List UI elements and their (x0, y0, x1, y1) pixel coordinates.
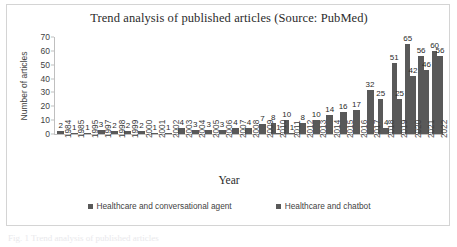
y-axis-tick-label: 70 (41, 32, 50, 42)
x-axis-tick-label: 2001 (158, 120, 167, 138)
y-axis-title-label: Number of articles (19, 51, 29, 120)
x-axis-tick-label: 2010 (279, 120, 288, 138)
bar-value-label: 10 (312, 111, 321, 119)
x-axis-tick-label: 2018 (387, 120, 396, 138)
x-axis-tick-label: 1995 (91, 120, 100, 138)
x-axis-tick-label: 2004 (198, 120, 207, 138)
x-axis-tick-label: 2015 (346, 120, 355, 138)
x-axis-tick-label: 1985 (77, 120, 86, 138)
y-axis-tick-label: 10 (41, 115, 50, 125)
bar-value-label: 17 (352, 101, 361, 109)
x-axis-tick-label: 2005 (212, 120, 221, 138)
bar-value-label: 3 (206, 121, 210, 129)
bar-value-label: 16 (339, 103, 348, 111)
bar-value-label: 56 (436, 47, 445, 55)
legend-swatch-icon (88, 204, 93, 209)
bar-value-label: 10 (282, 111, 291, 119)
y-axis-tick-label: 30 (41, 87, 50, 97)
legend-item-conversational-agent: Healthcare and conversational agent (88, 201, 232, 211)
x-axis-tick-label: 2006 (225, 120, 234, 138)
x-axis-tick-label: 2021 (427, 120, 436, 138)
bar-value-label: 25 (376, 90, 385, 98)
x-axis-tick-label: 2011 (293, 120, 302, 138)
x-axis-tick-label: 2003 (185, 120, 194, 138)
figure-caption: Fig. 1 Trend analysis of published artic… (8, 233, 448, 243)
x-axis-title: Year (7, 174, 451, 186)
chart-legend: Healthcare and conversational agent Heal… (7, 201, 451, 211)
chart-title: Trend analysis of published articles (So… (7, 11, 451, 26)
x-axis-tick-label: 2000 (145, 120, 154, 138)
legend-item-chatbot: Healthcare and chatbot (276, 201, 371, 211)
x-axis-tick-label: 2014 (333, 120, 342, 138)
x-axis-tick-label: 2022 (440, 120, 449, 138)
x-axis-tick-label: 2012 (306, 120, 315, 138)
x-axis-tick-label: 2020 (414, 120, 423, 138)
bar-value-label: 2 (58, 122, 62, 130)
legend-label: Healthcare and conversational agent (97, 201, 232, 211)
bar-value-label: 51 (390, 54, 399, 62)
bar-value-label: 32 (366, 81, 375, 89)
x-axis-tick-label: 1999 (131, 120, 140, 138)
x-axis-tick-label: 1984 (64, 120, 73, 138)
bar-value-label: 56 (417, 47, 426, 55)
bar-value-label: 14 (325, 106, 334, 114)
bar-value-label: 1 (85, 124, 89, 132)
x-axis-tick-label: 2007 (239, 120, 248, 138)
y-axis-tick-label: 40 (41, 74, 50, 84)
x-axis-tick-label: 1997 (104, 120, 113, 138)
x-axis-tick-label: 2019 (400, 120, 409, 138)
legend-swatch-icon (276, 204, 281, 209)
x-axis-tick-label: 2009 (266, 120, 275, 138)
x-axis-tick-label: 2002 (172, 120, 181, 138)
y-axis-tick-label: 50 (41, 60, 50, 70)
x-axis-tick-label: 2008 (252, 120, 261, 138)
y-axis-tick-label: 20 (41, 101, 50, 111)
y-axis-title: Number of articles (17, 37, 31, 134)
y-axis-tick-label: 0 (45, 129, 50, 139)
x-axis-tick-label: 1998 (118, 120, 127, 138)
figure-container: Trend analysis of published articles (So… (0, 0, 457, 247)
bar-value-label: 65 (403, 35, 412, 43)
chart-frame: Trend analysis of published articles (So… (6, 4, 450, 226)
x-axis-tick-label: 2016 (360, 120, 369, 138)
y-axis-tick-label: 60 (41, 46, 50, 56)
legend-label: Healthcare and chatbot (285, 201, 371, 211)
x-axis-tick-label: 2017 (373, 120, 382, 138)
x-axis-tick-label: 2013 (319, 120, 328, 138)
